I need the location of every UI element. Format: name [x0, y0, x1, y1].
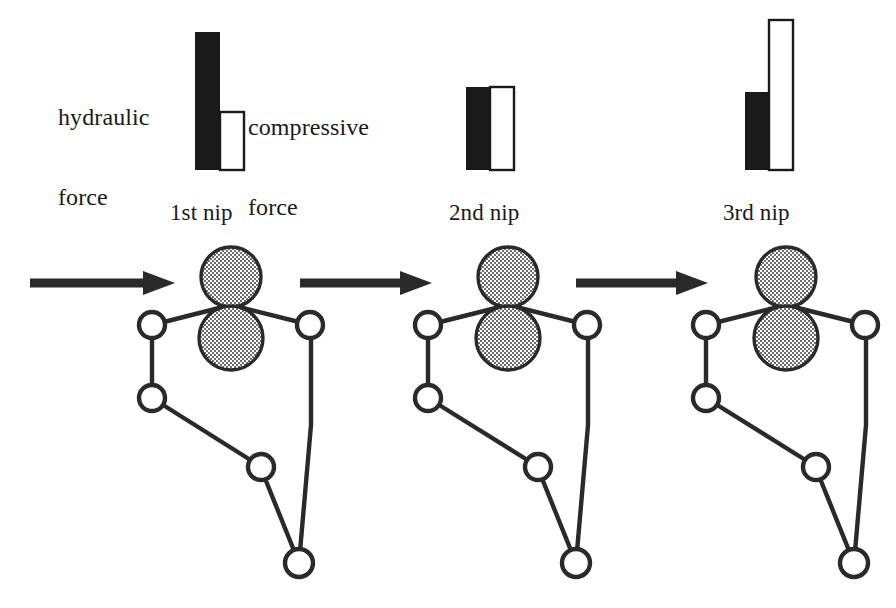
- guide-roller-2b: [574, 312, 600, 338]
- bottom-press-roller-1: [199, 306, 263, 370]
- guide-roller-2a: [415, 312, 441, 338]
- nip-label-2: 2nd nip: [449, 200, 519, 226]
- legend-compressive-label: compressive force: [248, 60, 369, 275]
- nip-label-1: 1st nip: [170, 200, 233, 226]
- bar-group-nip-3: [745, 20, 793, 170]
- guide-roller-3c: [693, 385, 719, 411]
- legend-compressive-line2: force: [248, 194, 369, 221]
- guide-roller-3d: [803, 454, 829, 480]
- guide-roller-1b: [297, 312, 323, 338]
- legend-hydraulic-line1: hydraulic: [58, 104, 150, 131]
- guide-roller-2e: [562, 549, 590, 577]
- legend-hydraulic-swatch: [195, 32, 220, 170]
- bar-compressive-nip-3: [769, 20, 793, 170]
- legend-compressive-swatch: [220, 112, 244, 170]
- transfer-arrow-2: [576, 271, 708, 295]
- guide-roller-1e: [285, 549, 313, 577]
- guide-roller-1a: [139, 312, 165, 338]
- legend-hydraulic-line2: force: [58, 184, 150, 211]
- bar-hydraulic-nip-2: [466, 87, 490, 170]
- press-section-2: [415, 247, 600, 577]
- bottom-press-roller-3: [754, 306, 818, 370]
- guide-roller-1c: [139, 385, 165, 411]
- press-section-3: [693, 247, 878, 577]
- bottom-press-roller-2: [476, 306, 540, 370]
- legend-hydraulic-label: hydraulic force: [58, 50, 150, 265]
- bar-compressive-nip-2: [490, 87, 514, 170]
- top-press-roller-3: [756, 247, 816, 307]
- bar-hydraulic-nip-3: [745, 92, 769, 170]
- guide-roller-3b: [852, 312, 878, 338]
- nip-label-3: 3rd nip: [723, 200, 790, 226]
- press-section-1: [139, 247, 323, 577]
- top-press-roller-2: [478, 247, 538, 307]
- guide-roller-2c: [415, 385, 441, 411]
- guide-roller-1d: [248, 454, 274, 480]
- guide-roller-3a: [693, 312, 719, 338]
- bar-group-nip-2: [466, 87, 514, 170]
- guide-roller-2d: [525, 454, 551, 480]
- legend-bar-group: [195, 32, 244, 170]
- inlet-arrow: [30, 271, 175, 295]
- legend-compressive-line1: compressive: [248, 114, 369, 141]
- diagram-canvas: hydraulic force compressive force 1st ni…: [0, 0, 896, 608]
- guide-roller-3e: [840, 549, 868, 577]
